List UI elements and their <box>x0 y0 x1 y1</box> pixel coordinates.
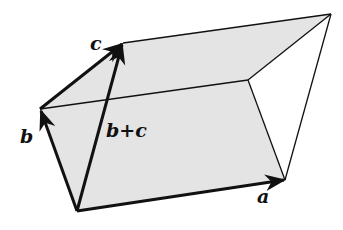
label-b: b <box>20 125 33 147</box>
label-b-plus-c: b+c <box>106 119 147 141</box>
label-a: a <box>257 185 269 207</box>
parallelepiped-diagram: a b c b+c <box>0 0 343 230</box>
label-c: c <box>90 32 102 54</box>
